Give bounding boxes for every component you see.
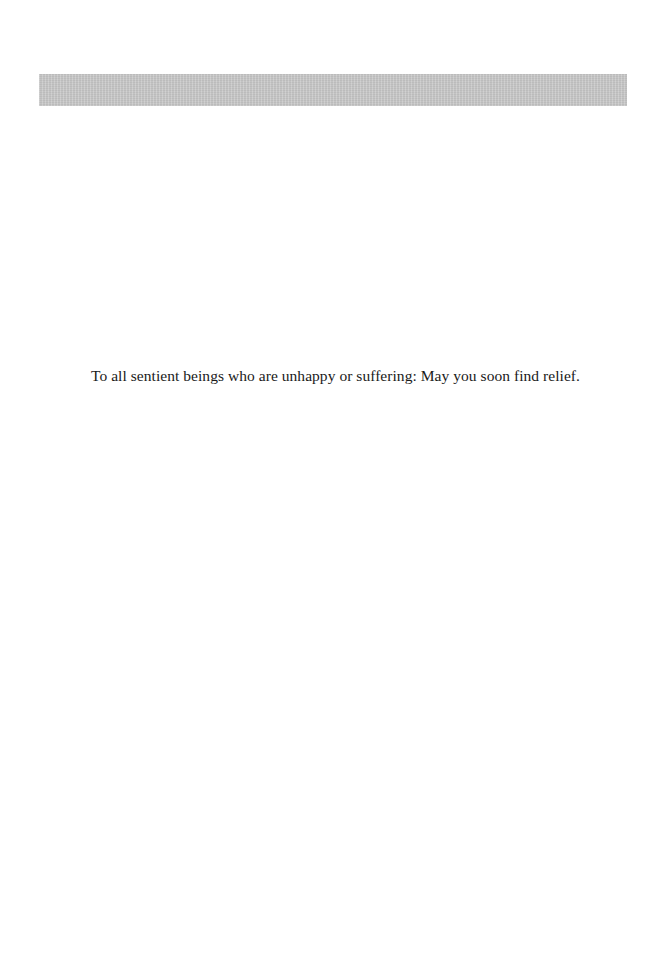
dedication-text: To all sentient beings who are unhappy o… xyxy=(0,366,671,386)
header-decorative-bar xyxy=(39,74,627,106)
